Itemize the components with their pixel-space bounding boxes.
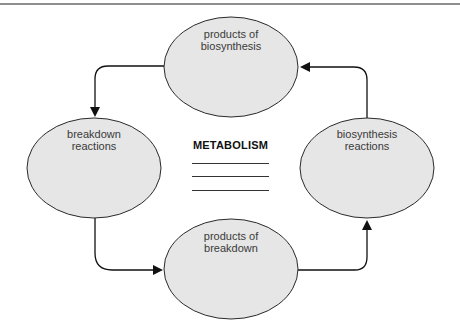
label-line-2: biosynthesis (171, 40, 291, 52)
label-line-2: reactions (34, 140, 154, 152)
label-line-2: breakdown (171, 242, 291, 254)
label-line-2: reactions (307, 140, 427, 152)
label-products-of-breakdown: products of breakdown (171, 230, 291, 254)
blank-answer-line-2 (192, 176, 269, 177)
label-line-1: products of (171, 230, 291, 242)
label-line-1: biosynthesis (307, 128, 427, 140)
blank-answer-line-1 (192, 163, 269, 164)
arrow-breakdown-to-products-of-breakdown (95, 218, 161, 270)
arrow-products-of-breakdown-to-biosynthesis (298, 222, 367, 270)
arrow-biosynthesis-to-products-of-biosynthesis (302, 67, 367, 119)
arrow-biosynthesis-products-to-breakdown (95, 66, 164, 115)
blank-answer-line-3 (192, 190, 269, 191)
label-breakdown-reactions: breakdown reactions (34, 128, 154, 152)
diagram-title: METABOLISM (188, 139, 273, 151)
label-products-of-biosynthesis: products of biosynthesis (171, 28, 291, 52)
label-line-1: products of (171, 28, 291, 40)
label-line-1: breakdown (34, 128, 154, 140)
label-biosynthesis-reactions: biosynthesis reactions (307, 128, 427, 152)
